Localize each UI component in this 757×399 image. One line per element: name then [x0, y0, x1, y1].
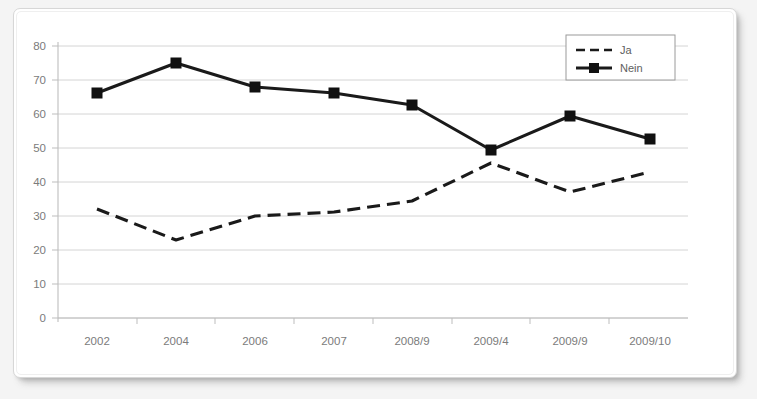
axes — [52, 42, 688, 324]
line-chart-svg: 80 70 60 50 40 30 20 10 0 2002 2004 2006… — [0, 0, 757, 399]
legend-label-ja: Ja — [620, 44, 633, 56]
gridlines — [58, 46, 688, 318]
x-axis-tick-labels: 2002 2004 2006 2007 2008/9 2009/4 2009/9… — [84, 335, 671, 347]
data-point-marker — [250, 82, 260, 92]
data-point-marker — [171, 58, 181, 68]
data-point-marker — [486, 145, 496, 155]
x-tick-label: 2004 — [163, 335, 189, 347]
y-tick-label: 50 — [33, 142, 46, 154]
x-tick-label: 2006 — [242, 335, 268, 347]
y-axis-tick-labels: 80 70 60 50 40 30 20 10 0 — [33, 40, 46, 324]
data-point-marker — [645, 134, 655, 144]
x-tick-label: 2008/9 — [394, 335, 429, 347]
y-tick-label: 10 — [33, 278, 46, 290]
x-tick-label: 2009/9 — [552, 335, 587, 347]
data-point-marker — [407, 100, 417, 110]
data-point-marker — [329, 88, 339, 98]
y-tick-label: 20 — [33, 244, 46, 256]
y-tick-label: 60 — [33, 108, 46, 120]
legend-marker-nein — [589, 63, 599, 73]
legend-label-nein: Nein — [620, 62, 643, 74]
y-tick-label: 40 — [33, 176, 46, 188]
chart-container: 80 70 60 50 40 30 20 10 0 2002 2004 2006… — [0, 0, 757, 399]
data-point-marker — [92, 88, 102, 98]
chart-legend: Ja Nein — [566, 35, 675, 80]
screenshot-page: 80 70 60 50 40 30 20 10 0 2002 2004 2006… — [0, 0, 757, 399]
x-tick-label: 2009/4 — [473, 335, 509, 347]
y-tick-label: 0 — [40, 312, 46, 324]
x-tick-label: 2009/10 — [629, 335, 671, 347]
y-tick-label: 70 — [33, 74, 46, 86]
y-tick-label: 80 — [33, 40, 46, 52]
x-tick-label: 2002 — [84, 335, 110, 347]
y-tick-label: 30 — [33, 210, 46, 222]
data-point-marker — [565, 111, 575, 121]
x-tick-label: 2007 — [321, 335, 347, 347]
series-line-ja — [97, 163, 650, 240]
